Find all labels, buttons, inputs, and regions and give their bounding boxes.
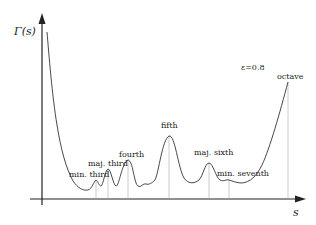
label-maj-sixth: maj. sixth bbox=[194, 148, 233, 157]
label-fifth: fifth bbox=[161, 121, 178, 130]
epsilon-annotation: ε=0.8 bbox=[241, 63, 265, 72]
label-min-seventh: min. seventh bbox=[217, 169, 269, 178]
peak-drop-lines bbox=[96, 82, 288, 199]
x-axis-label: s bbox=[293, 206, 299, 219]
label-fourth: fourth bbox=[119, 150, 144, 159]
label-min-third: min. third bbox=[69, 170, 109, 179]
label-maj-third: maj. third bbox=[88, 159, 128, 168]
label-octave: octave bbox=[277, 72, 304, 81]
y-axis-label: Γ(s) bbox=[13, 25, 36, 38]
y-axis-arrow-icon bbox=[39, 13, 46, 24]
gamma-curve bbox=[47, 32, 288, 190]
chart-canvas: Γ(s) s ε=0.8 min. third maj. third fourt… bbox=[0, 0, 316, 225]
x-axis-arrow-icon bbox=[295, 196, 306, 203]
